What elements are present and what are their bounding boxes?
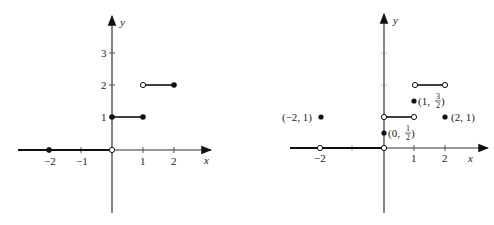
closed-point xyxy=(109,114,115,120)
closed-point xyxy=(140,114,146,120)
point-label: (2, 1) xyxy=(451,111,475,124)
point-label: (1, 3 2 ) xyxy=(418,92,445,110)
closed-point xyxy=(171,82,177,88)
x-tick-label: 1 xyxy=(411,152,417,164)
closed-point xyxy=(411,98,416,103)
svg-text:2: 2 xyxy=(436,101,440,110)
y-tick-label: 3 xyxy=(101,47,107,59)
graph-left: −2 −1 1 2 1 2 3 x y xyxy=(18,16,211,213)
y-tick-label: 1 xyxy=(101,111,107,123)
x-tick-label: −2 xyxy=(314,152,326,164)
x-tick-label: −1 xyxy=(76,155,88,167)
closed-point xyxy=(46,147,52,153)
point-label: (0, 1 2 ) xyxy=(388,124,415,142)
x-tick-label: 2 xyxy=(171,155,177,167)
svg-text:): ) xyxy=(411,127,415,140)
x-tick-label: 1 xyxy=(140,155,146,167)
svg-text:3: 3 xyxy=(436,92,440,101)
y-axis-label: y xyxy=(119,16,125,28)
open-point xyxy=(381,114,386,119)
svg-text:(0,: (0, xyxy=(388,127,400,140)
graph-right: −2 1 2 x y (−2, 1) (2, 1) (0, 1 2 ) xyxy=(282,14,488,213)
svg-text:2: 2 xyxy=(406,133,410,142)
x-tick-label: −2 xyxy=(44,155,56,167)
closed-point xyxy=(318,114,323,119)
y-axis-label: y xyxy=(392,14,398,26)
y-tick-label: 2 xyxy=(101,79,107,91)
figure: −2 −1 1 2 1 2 3 x y −2 1 xyxy=(0,0,494,225)
x-axis-label: x xyxy=(203,154,209,166)
open-point xyxy=(381,145,386,150)
open-point xyxy=(140,82,145,87)
open-point xyxy=(411,114,416,119)
svg-text:1: 1 xyxy=(406,124,410,133)
open-point xyxy=(442,82,447,87)
open-point xyxy=(109,147,114,152)
open-point xyxy=(412,82,417,87)
x-axis-label: x xyxy=(467,152,473,164)
closed-point xyxy=(381,130,386,135)
open-point xyxy=(317,145,322,150)
point-label: (−2, 1) xyxy=(282,111,312,124)
svg-text:): ) xyxy=(441,95,445,108)
svg-text:(1,: (1, xyxy=(418,95,430,108)
x-tick-label: 2 xyxy=(442,152,448,164)
closed-point xyxy=(442,114,447,119)
